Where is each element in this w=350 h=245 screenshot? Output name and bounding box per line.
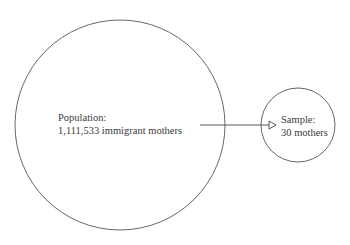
population-description: 1,111,533 immigrant mothers	[58, 124, 182, 137]
population-title: Population:	[58, 111, 182, 124]
sampling-arrow	[200, 121, 276, 129]
sample-description: 30 mothers	[281, 126, 328, 139]
arrowhead-icon	[269, 121, 276, 129]
population-label: Population: 1,111,533 immigrant mothers	[58, 111, 182, 137]
diagram-canvas: Population: 1,111,533 immigrant mothers …	[0, 0, 350, 245]
sample-label: Sample: 30 mothers	[281, 113, 328, 139]
sample-title: Sample:	[281, 113, 328, 126]
